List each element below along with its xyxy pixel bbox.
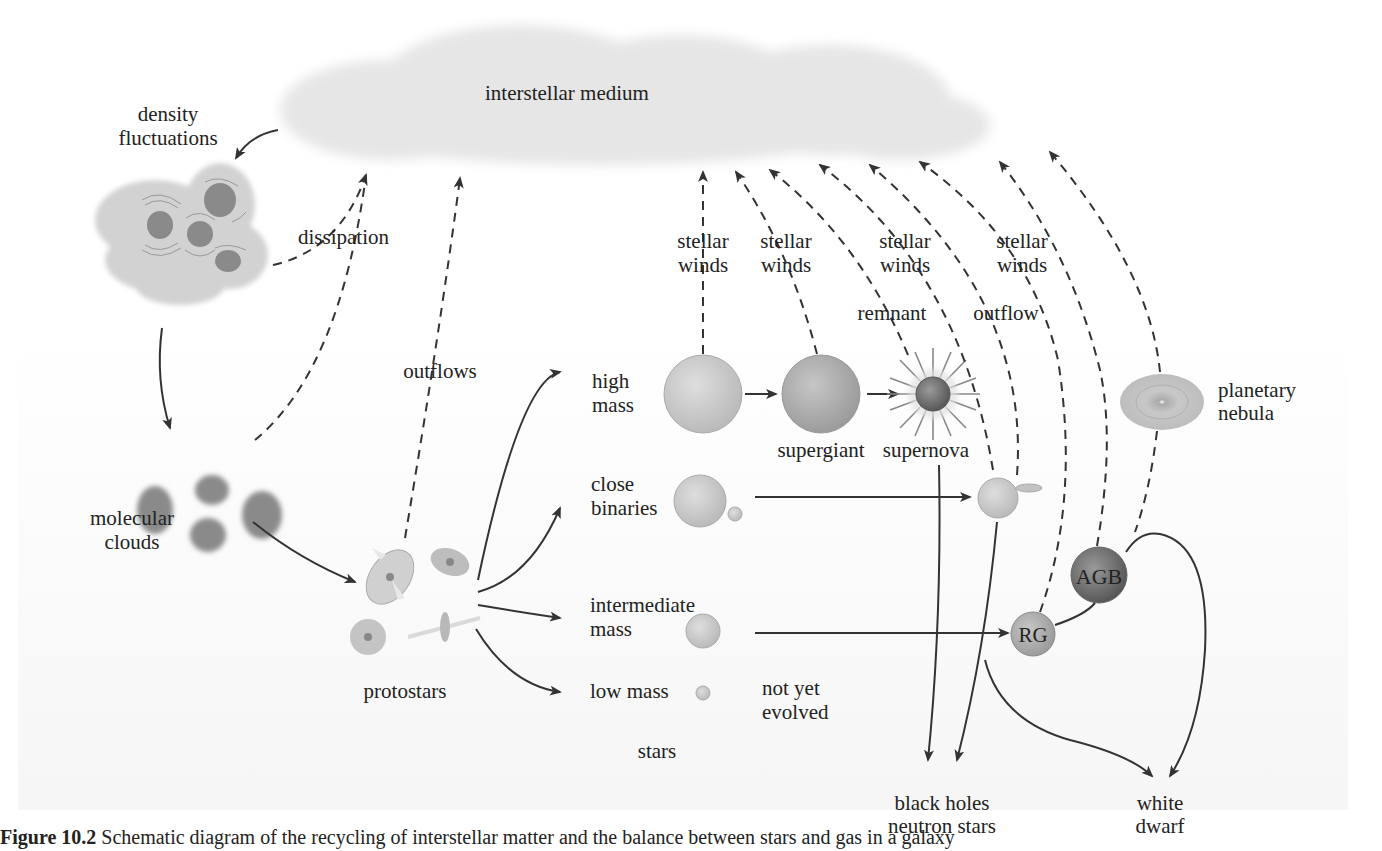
remnant-label: remnant	[858, 301, 927, 325]
stellar-winds-1-label-2: winds	[678, 253, 728, 277]
planetary-label-2: nebula	[1218, 401, 1275, 425]
not-yet-evolved-label-2: evolved	[762, 700, 829, 724]
planetary-label-1: planetary	[1218, 378, 1297, 402]
supergiant-star	[782, 355, 860, 433]
stellar-winds-1-label-1: stellar	[677, 229, 728, 253]
planetary-nebula	[1120, 374, 1204, 430]
protostars-label: protostars	[364, 679, 447, 703]
molecular-label-1: molecular	[90, 506, 174, 530]
accretion-disk	[1016, 484, 1042, 492]
stars-label: stars	[638, 739, 677, 763]
stellar-winds-3-label-1: stellar	[879, 229, 930, 253]
stellar-winds-2-label-2: winds	[761, 253, 811, 277]
stellar-winds-2-label-1: stellar	[760, 229, 811, 253]
rg-label: RG	[1018, 623, 1047, 647]
agb-label: AGB	[1076, 564, 1122, 589]
stellar-winds-4-label-1: stellar	[996, 229, 1047, 253]
caption-text: Schematic diagram of the recycling of in…	[96, 826, 955, 848]
high-mass-star	[664, 355, 742, 433]
low-mass-star	[696, 686, 710, 700]
figure-caption: Figure 10.2 Schematic diagram of the rec…	[0, 826, 1382, 851]
close-binary-primary	[674, 475, 726, 527]
molecular-label-2: clouds	[105, 530, 160, 554]
caption-label: Figure 10.2	[0, 826, 96, 848]
low-mass-label: low mass	[590, 679, 669, 703]
intermediate-mass-star	[686, 614, 720, 648]
stellar-cycle-diagram: interstellar medium density fluctuations…	[0, 0, 1382, 851]
white-dwarf-label-1: white	[1137, 791, 1184, 815]
stellar-winds-4-label-2: winds	[997, 253, 1047, 277]
supergiant-label: supergiant	[777, 438, 864, 462]
high-mass-label-2: mass	[592, 393, 634, 417]
close-binaries-label-2: binaries	[591, 496, 657, 520]
high-mass-label-1: high	[592, 369, 630, 393]
arrow-ism-to-density	[236, 130, 278, 158]
outflow-label: outflow	[973, 301, 1039, 325]
density-label-1: density	[138, 102, 199, 126]
evolved-binary-star	[978, 478, 1018, 518]
density-fluctuations-blob	[95, 163, 268, 305]
black-holes-label: black holes	[894, 791, 989, 815]
not-yet-evolved-label-1: not yet	[762, 676, 820, 700]
supernova-label: supernova	[883, 438, 970, 462]
intermediate-label-1: intermediate	[590, 593, 695, 617]
outflows-label: outflows	[403, 359, 477, 383]
close-binary-secondary	[728, 507, 742, 521]
stellar-winds-3-label-2: winds	[880, 253, 930, 277]
close-binaries-label-1: close	[591, 472, 634, 496]
density-label-2: fluctuations	[118, 126, 217, 150]
dissipation-label: dissipation	[298, 225, 390, 249]
intermediate-label-2: mass	[590, 617, 632, 641]
ism-label: interstellar medium	[485, 81, 649, 105]
